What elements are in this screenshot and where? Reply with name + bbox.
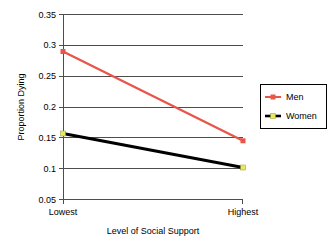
y-tick-label-0.2: 0.2 [43, 102, 56, 112]
line-chart: 0.35 0.3 0.25 0.2 0.15 0.1 0.05 Lowest H… [0, 0, 335, 247]
legend-label-women: Women [286, 111, 317, 121]
x-tick-label-highest: Highest [228, 207, 259, 217]
series-women-point-lowest [61, 131, 66, 136]
x-tick-label-lowest: Lowest [49, 207, 78, 217]
legend-swatch-marker-men [271, 95, 276, 100]
y-tick-label-0.3: 0.3 [43, 40, 56, 50]
y-tick-label-0.1: 0.1 [43, 164, 56, 174]
legend-label-men: Men [286, 92, 304, 102]
y-axis-title: Proportion Dying [16, 73, 26, 140]
chart-container: 0.35 0.3 0.25 0.2 0.15 0.1 0.05 Lowest H… [0, 0, 335, 247]
series-men-point-lowest [61, 49, 66, 54]
chart-legend: Men Women [261, 85, 327, 129]
x-axis-title: Level of Social Support [107, 226, 200, 236]
legend-swatch-marker-women [271, 114, 276, 119]
series-women-point-highest [241, 165, 246, 170]
y-tick-label-0.25: 0.25 [38, 71, 56, 81]
y-tick-label-0.05: 0.05 [38, 195, 56, 205]
series-men-point-highest [241, 138, 246, 143]
y-tick-label-0.35: 0.35 [38, 10, 56, 20]
y-tick-label-0.15: 0.15 [38, 133, 56, 143]
